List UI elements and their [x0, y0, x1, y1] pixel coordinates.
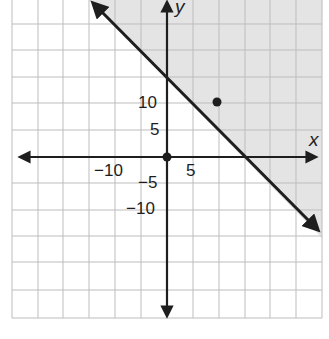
- x-tick-neg10: −10: [94, 162, 123, 179]
- y-tick-5: 5: [150, 121, 159, 138]
- x-axis-label: x: [309, 130, 319, 149]
- origin-point: [163, 153, 172, 162]
- y-tick-10: 10: [138, 94, 157, 111]
- x-tick-5: 5: [186, 162, 195, 179]
- y-tick-neg5: −5: [138, 174, 157, 191]
- y-axis-label: y: [175, 0, 185, 16]
- test-point: [213, 98, 222, 107]
- inequality-graph: [0, 0, 329, 339]
- y-tick-neg10: −10: [126, 200, 155, 217]
